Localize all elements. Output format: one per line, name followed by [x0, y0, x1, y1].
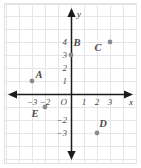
y-tick-label-3: 3 [62, 50, 68, 60]
point-dot-E [43, 105, 48, 110]
point-dot-A [30, 79, 35, 84]
plot-border [5, 5, 137, 164]
x-tick-label-3: 3 [107, 97, 113, 107]
axes [8, 8, 133, 160]
x-tick-label-1: 1 [82, 97, 87, 107]
x-tick-label-2: 2 [95, 97, 100, 107]
y-axis-arrow-down [67, 151, 75, 160]
point-label-C: C [94, 42, 102, 53]
point-label-E: E [30, 108, 38, 119]
y-tick-label-4: 4 [63, 37, 68, 47]
y-tick-label-1: 1 [63, 76, 68, 86]
x-axis-label: x [128, 97, 133, 107]
tick-labels: −3−21234321−2−3Oxy [27, 9, 133, 138]
x-tick-label-neg3: −3 [27, 97, 38, 107]
grid-lines [4, 4, 137, 165]
point-label-A: A [34, 69, 42, 80]
plot-frame [5, 5, 137, 164]
coordinate-plane-figure: −3−21234321−2−3Oxy ABCDE [0, 0, 141, 168]
x-axis-arrow-left [8, 90, 17, 98]
y-axis-arrow-up [67, 8, 75, 17]
point-dot-B [69, 53, 74, 58]
coordinate-plane-svg: −3−21234321−2−3Oxy ABCDE [0, 0, 141, 168]
y-tick-label-neg2: −2 [56, 115, 67, 125]
point-dot-C [108, 40, 113, 45]
point-label-D: D [98, 118, 107, 129]
origin-label: O [61, 97, 68, 107]
y-tick-label-neg3: −3 [56, 128, 67, 138]
y-tick-label-2: 2 [63, 63, 68, 73]
point-dot-D [95, 131, 100, 136]
point-label-B: B [72, 37, 80, 48]
y-axis-label: y [76, 9, 81, 19]
